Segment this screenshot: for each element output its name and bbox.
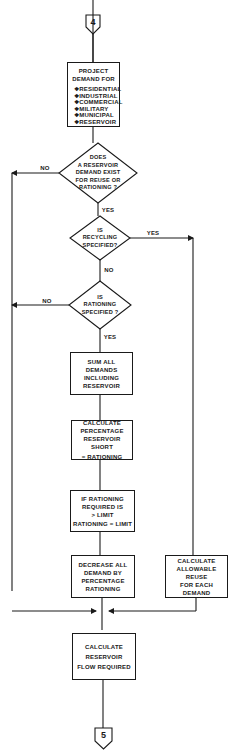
decision-reservoir-no-label: NO (38, 164, 52, 172)
decision-reservoir-line: DOES (90, 154, 107, 162)
decision-recycling-yes-label: YES (145, 229, 161, 237)
connector-4-label: 4 (86, 17, 100, 27)
project-demand-title-1: PROJECT (79, 67, 109, 75)
rationing-limit-line: > LIMIT (91, 511, 113, 519)
demand-item-reservoir: ❖RESERVOIR (68, 119, 116, 126)
decision-recycling-no-label: NO (102, 266, 116, 274)
decision-rationing-line: SPECIFIED ? (82, 309, 119, 317)
decision-reservoir-yes-label: YES (100, 206, 116, 214)
decrease-demand-line: DECREASE ALL (79, 561, 128, 569)
rationing-limit-box: IF RATIONING REQUIRED IS > LIMIT RATIONI… (70, 490, 135, 532)
sum-demands-box: SUM ALL DEMANDS INCLUDING RESERVOIR (70, 352, 133, 395)
decision-recycling-line: IS (97, 227, 103, 235)
decision-reservoir-line: FOR REUSE OR (76, 177, 121, 185)
decision-reservoir-line: DEMAND EXIST (76, 169, 121, 177)
decrease-demand-line: PERCENTAGE (81, 577, 124, 585)
decision-recycling-line: SPECIFIED? (83, 242, 118, 250)
decision-rationing-line: RATIONING (84, 301, 117, 309)
calc-percentage-line: PERCENTAGE (80, 427, 123, 435)
connector-5-label: 5 (95, 730, 112, 740)
reservoir-flow-line: FLOW REQUIRED (77, 663, 131, 671)
reservoir-flow-box: CALCULATE RESERVOIR FLOW REQUIRED (72, 633, 136, 680)
allowable-reuse-line: CALCULATE (177, 557, 215, 565)
decrease-demand-box: DECREASE ALL DEMAND BY PERCENTAGE RATION… (71, 555, 135, 598)
decision-rationing-no-label: NO (40, 297, 54, 305)
decision-recycling-text: IS RECYCLING SPECIFIED? (78, 224, 122, 252)
project-demand-title-2: DEMAND FOR (72, 75, 115, 83)
sum-demands-line: INCLUDING (84, 374, 119, 382)
allowable-reuse-box: CALCULATE ALLOWABLE REUSE FOR EACH DEMAN… (165, 555, 228, 598)
allowable-reuse-line: REUSE (186, 573, 208, 581)
decision-rationing-text: IS RATIONING SPECIFIED ? (76, 291, 124, 319)
decrease-demand-line: DEMAND BY (84, 569, 122, 577)
reservoir-flow-line: CALCULATE (85, 643, 123, 651)
decision-rationing-yes-label: YES (102, 333, 118, 341)
calc-percentage-box: CALCULATE PERCENTAGE RESERVOIR SHORT = R… (71, 420, 133, 460)
project-demand-box: PROJECT DEMAND FOR ❖RESIDENTIAL ❖INDUSTR… (67, 62, 120, 127)
decision-recycling-line: RECYCLING (83, 234, 118, 242)
decision-reservoir-line: RATIONING ? (79, 184, 117, 192)
sum-demands-line: RESERVOIR (83, 382, 120, 390)
sum-demands-line: SUM ALL DEMANDS (71, 358, 132, 374)
allowable-reuse-line: ALLOWABLE (177, 565, 217, 573)
calc-percentage-line: CALCULATE (83, 419, 121, 427)
calc-percentage-line: = RATIONING (82, 453, 123, 461)
allowable-reuse-line: FOR EACH DEMAND (166, 581, 227, 597)
reservoir-flow-line: RESERVOIR (85, 653, 122, 661)
decision-rationing-line: IS (97, 294, 103, 302)
rationing-limit-line: IF RATIONING (81, 495, 124, 503)
calc-percentage-line: RESERVOIR SHORT (72, 435, 132, 451)
decision-reservoir-line: A RESERVOIR (78, 162, 118, 170)
decision-reservoir-text: DOES A RESERVOIR DEMAND EXIST FOR REUSE … (68, 152, 128, 194)
decrease-demand-line: RATIONING (85, 585, 120, 593)
rationing-limit-line: REQUIRED IS (82, 503, 123, 511)
rationing-limit-line: RATIONING = LIMIT (73, 520, 132, 528)
